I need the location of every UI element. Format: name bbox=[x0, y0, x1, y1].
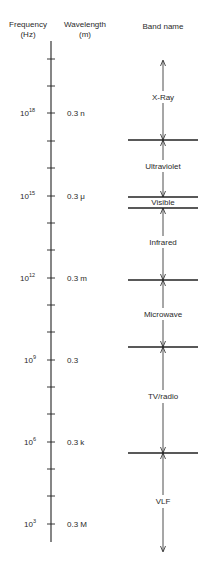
wavelength-header: Wavelength bbox=[64, 20, 106, 29]
freq-label-1e18: 1018 bbox=[20, 107, 35, 118]
freq-label-1e15: 1015 bbox=[20, 190, 35, 201]
band-label-visible: Visible bbox=[151, 198, 175, 207]
wavelength-label-0.3k: 0.3 k bbox=[67, 438, 85, 447]
column-headers: Frequency (Hz) Wavelength (m) Band name bbox=[9, 20, 184, 39]
band-label-xray: X-Ray bbox=[152, 93, 174, 102]
frequency-header: Frequency bbox=[9, 20, 47, 29]
frequency-labels: 1018 1015 1012 109 106 103 bbox=[20, 107, 36, 529]
wavelength-label-0.3n: 0.3 n bbox=[67, 109, 85, 118]
band-label-microwave: Microwave bbox=[144, 310, 183, 319]
band-label-vlf: VLF bbox=[156, 497, 171, 506]
wavelength-label-0.3M: 0.3 M bbox=[67, 520, 87, 529]
freq-label-1e12: 1012 bbox=[20, 272, 35, 283]
freq-label-1e6: 106 bbox=[24, 436, 36, 447]
freq-label-1e9: 109 bbox=[24, 354, 36, 365]
freq-label-1e3: 103 bbox=[24, 518, 36, 529]
band-label-ultraviolet: Ultraviolet bbox=[145, 162, 181, 171]
em-spectrum-diagram: Frequency (Hz) Wavelength (m) Band name bbox=[0, 0, 210, 571]
wavelength-label-0.3: 0.3 bbox=[67, 356, 79, 365]
wavelength-label-0.3u: 0.3 μ bbox=[67, 192, 85, 201]
band-name-header: Band name bbox=[143, 22, 184, 31]
wavelength-unit: (m) bbox=[79, 30, 91, 39]
frequency-axis bbox=[47, 41, 55, 542]
wavelength-labels: 0.3 n 0.3 μ 0.3 m 0.3 0.3 k 0.3 M bbox=[67, 109, 87, 529]
band-label-infrared: Infrared bbox=[149, 238, 177, 247]
band-label-tvradio: TV/radio bbox=[148, 392, 179, 401]
wavelength-label-0.3m: 0.3 m bbox=[67, 274, 87, 283]
frequency-unit: (Hz) bbox=[20, 30, 35, 39]
